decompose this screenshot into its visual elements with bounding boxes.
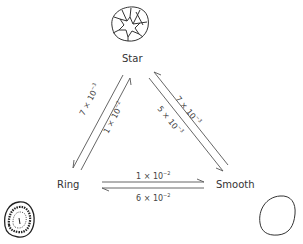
smooth-colony-icon: [260, 196, 295, 235]
ring-colony-icon: [5, 202, 34, 237]
node-label-star: Star: [122, 53, 143, 64]
node-label-ring: Ring: [57, 179, 79, 190]
star-colony-icon: [112, 7, 149, 41]
rate-ring-to-smooth: 1 × 10−2: [136, 170, 170, 181]
arrow-star-to-smooth: [149, 78, 223, 171]
diagram-canvas: [0, 0, 303, 244]
rate-smooth-to-ring: 6 × 10−2: [136, 192, 170, 203]
arrow-smooth-to-ring: [102, 188, 204, 191]
node-label-smooth: Smooth: [216, 179, 255, 190]
